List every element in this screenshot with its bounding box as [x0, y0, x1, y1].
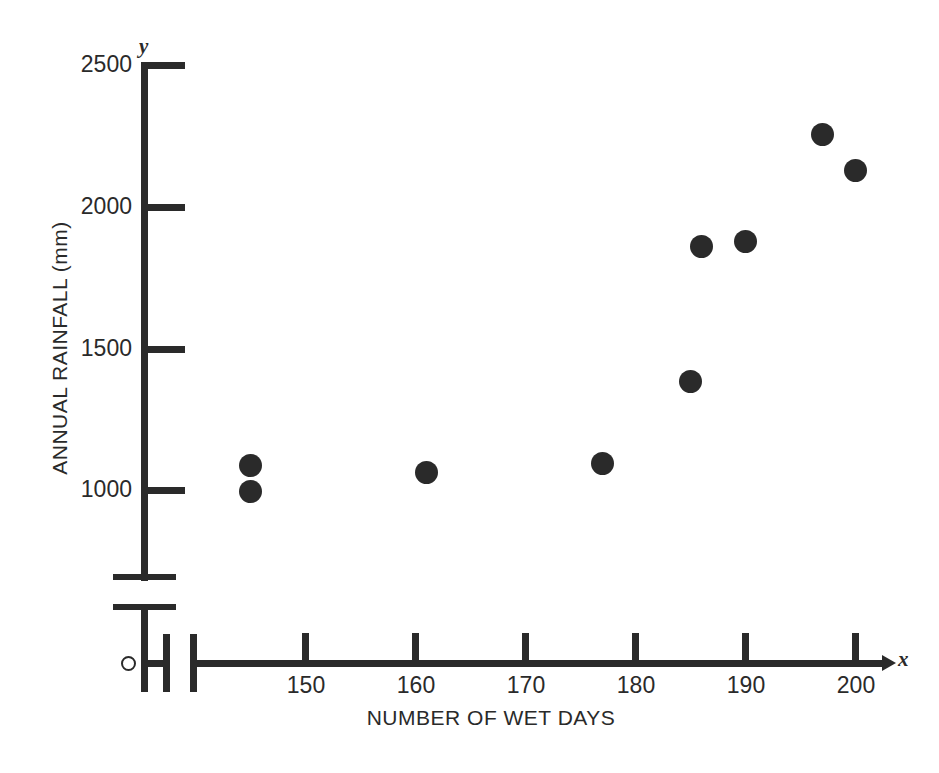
x-tick-150: [302, 633, 309, 667]
x-tick-180: [632, 633, 639, 667]
data-point: [239, 480, 262, 503]
chart-canvas: 2500 2000 1500 1000 y ANNUAL RAINFALL (m…: [0, 0, 939, 773]
data-point: [844, 159, 867, 182]
x-tick-label-180: 180: [596, 672, 676, 699]
x-tick-170: [522, 633, 529, 667]
x-tick-label-170: 170: [486, 672, 566, 699]
x-tick-label-150: 150: [266, 672, 346, 699]
y-axis-break-upper-mark: [113, 574, 176, 580]
y-axis-letter: y: [139, 34, 148, 59]
x-axis-title: NUMBER OF WET DAYS: [246, 706, 736, 730]
y-tick-2500: [141, 62, 185, 69]
origin-circle-icon: [121, 656, 136, 671]
y-axis-title: ANNUAL RAINFALL (mm): [48, 168, 72, 528]
y-axis-break-lower-mark: [113, 604, 176, 610]
x-tick-label-160: 160: [376, 672, 456, 699]
y-tick-2000: [141, 204, 185, 211]
x-tick-160: [412, 633, 419, 667]
x-tick-190: [742, 633, 749, 667]
y-axis-spine-lower: [141, 607, 148, 692]
x-tick-200: [852, 633, 859, 667]
x-axis-origin-connector: [141, 660, 170, 667]
data-point: [415, 461, 438, 484]
y-tick-1500: [141, 346, 185, 353]
x-axis-arrowhead-icon: [882, 655, 896, 671]
x-axis-letter: x: [898, 647, 909, 672]
x-axis-spine: [190, 660, 886, 667]
x-tick-label-190: 190: [706, 672, 786, 699]
x-tick-label-200: 200: [816, 672, 896, 699]
data-point: [734, 230, 757, 253]
y-tick-1000: [141, 487, 185, 494]
data-point: [811, 123, 834, 146]
data-point: [690, 235, 713, 258]
y-tick-label-2500: 2500: [40, 51, 132, 78]
data-point: [591, 452, 614, 475]
data-point: [239, 454, 262, 477]
data-point: [679, 370, 702, 393]
y-axis-spine: [141, 62, 148, 581]
